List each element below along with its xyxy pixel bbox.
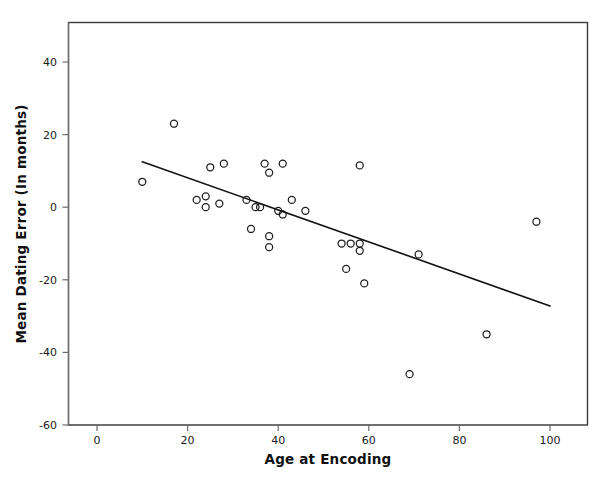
y-tick-label: -40 bbox=[39, 346, 57, 359]
figure-background bbox=[0, 0, 614, 478]
y-tick-label: -20 bbox=[39, 274, 57, 287]
y-tick-label: -60 bbox=[39, 419, 57, 432]
y-tick-label: 0 bbox=[50, 201, 57, 214]
x-axis-title: Age at Encoding bbox=[265, 451, 392, 467]
x-tick-label: 40 bbox=[271, 434, 285, 447]
x-tick-label: 20 bbox=[181, 434, 195, 447]
y-tick-label: 40 bbox=[43, 56, 57, 69]
y-axis-title: Mean Dating Error (In months) bbox=[13, 104, 29, 343]
x-tick-label: 60 bbox=[362, 434, 376, 447]
scatter-plot-figure: -60-40-2002040 020406080100 Age at Encod… bbox=[0, 0, 614, 478]
plot-canvas: -60-40-2002040 020406080100 Age at Encod… bbox=[0, 0, 614, 478]
y-tick-label: 20 bbox=[43, 129, 57, 142]
x-tick-label: 80 bbox=[452, 434, 466, 447]
x-tick-label: 0 bbox=[94, 434, 101, 447]
x-tick-label: 100 bbox=[540, 434, 561, 447]
